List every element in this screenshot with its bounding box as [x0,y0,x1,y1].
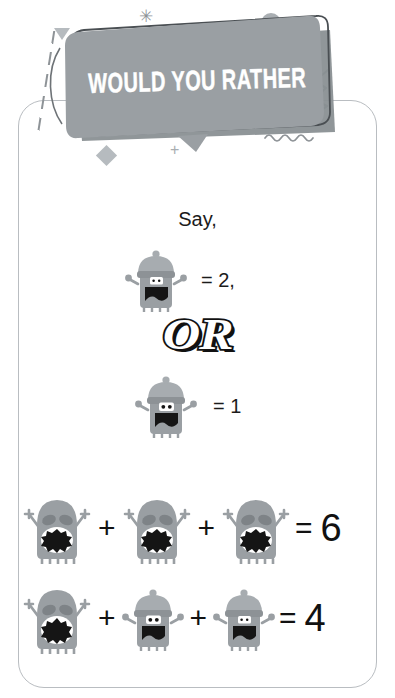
or-label: OR [0,313,395,357]
operator-plus: + [198,513,216,543]
operator-equals: = [295,513,313,543]
banner-title: WOULD YOU RATHER [61,62,334,99]
equation-row-1: + + [22,492,373,564]
banner: WOULD YOU RATHER [0,0,395,160]
equation-row-2: + + [22,582,373,654]
operator-plus: + [98,513,116,543]
monster-round-toothy [221,492,291,564]
monster-round-toothy [122,492,192,564]
worksheet-page: ✳ + WOULD YOU RATHER Say, [0,0,395,698]
monster-round-toothy [22,582,92,654]
monster-beanie-two-eye [122,585,184,651]
equation-result: 4 [305,599,326,637]
monster-beanie-one-eye [213,585,275,651]
operator-plus: + [98,603,116,633]
legend-value-1: = 2, [201,269,235,292]
operator-equals: = [279,603,297,633]
say-label: Say, [0,208,395,231]
legend-value-2: = 1 [213,395,241,418]
equation-result: 6 [321,509,342,547]
monster-round-toothy [22,492,92,564]
operator-plus: + [190,603,208,633]
or-text: OR [163,313,233,357]
legend-row-1: = 2, [125,248,235,312]
monster-beanie-one-eye [125,248,187,312]
legend-row-2: = 1 [135,374,241,438]
banner-title-text: WOULD YOU RATHER [88,61,307,100]
monster-beanie-two-eye [135,374,197,438]
